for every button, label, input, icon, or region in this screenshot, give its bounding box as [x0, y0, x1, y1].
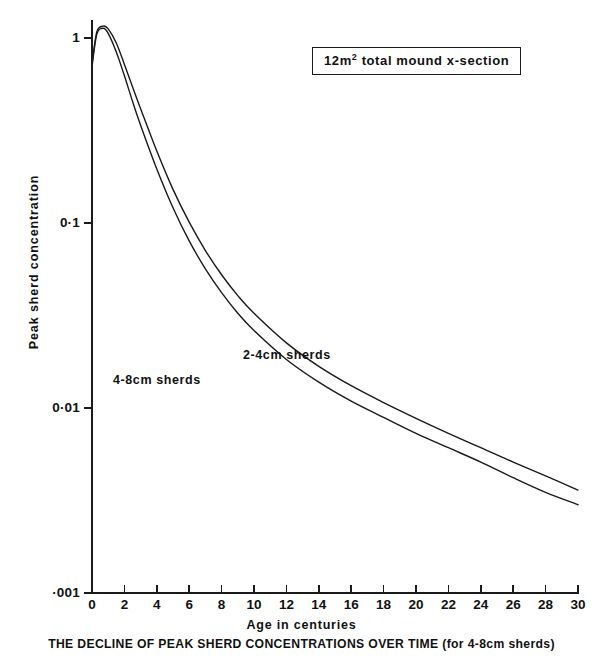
annotation-prefix: 12m — [324, 53, 352, 68]
series-curve-4-8cm — [92, 28, 578, 505]
series-label-4-8cm: 4-8cm sherds — [113, 373, 201, 387]
x-axis-title: Age in centuries — [0, 618, 603, 632]
series-curve-2-4cm — [92, 26, 578, 490]
figure-caption: THE DECLINE OF PEAK SHERD CONCENTRATIONS… — [0, 637, 603, 651]
chart-curves — [0, 0, 603, 662]
annotation-suffix: total mound x-section — [357, 53, 509, 68]
annotation-box: 12m2 total mound x-section — [312, 47, 521, 75]
series-label-2-4cm: 2-4cm sherds — [243, 348, 331, 362]
figure-container: 10·10·01·001 024681012141618202224262830… — [0, 0, 603, 662]
y-axis-title: Peak sherd concentration — [27, 132, 41, 392]
